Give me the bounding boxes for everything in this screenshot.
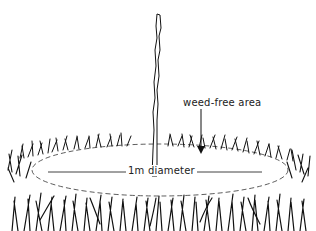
weed-free-area-label: weed-free area xyxy=(183,97,261,108)
sapling-weed-free-diagram xyxy=(0,0,316,231)
grass-front xyxy=(12,193,306,231)
weed-free-arrow xyxy=(197,109,205,154)
diameter-label: 1m diameter xyxy=(126,165,197,176)
